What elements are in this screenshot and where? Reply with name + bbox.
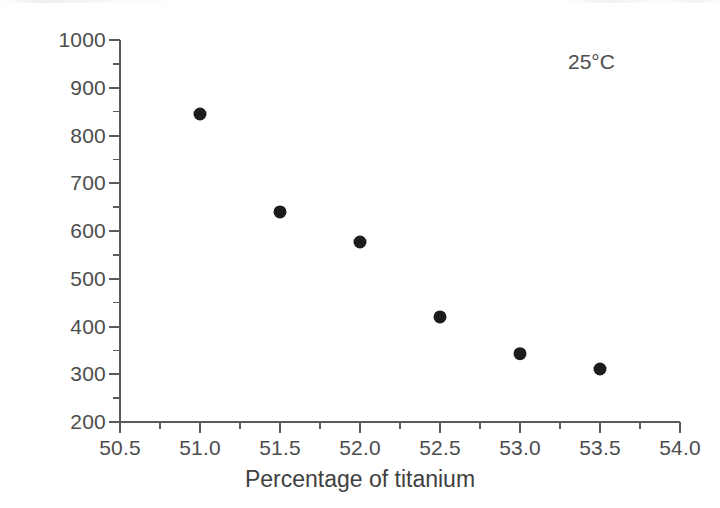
y-axis-ticks (109, 40, 120, 422)
x-axis-ticks (120, 422, 680, 433)
x-tick-label: 52.0 (339, 436, 381, 460)
y-tick-label: 600 (40, 219, 106, 243)
x-tick-label: 51.5 (259, 436, 301, 460)
x-tick-label: 53.5 (579, 436, 621, 460)
y-tick-label: 1000 (40, 28, 106, 52)
x-tick-label: 52.5 (419, 436, 461, 460)
data-point (194, 108, 207, 121)
x-axis-title: Percentage of titanium (0, 466, 720, 493)
y-tick-label: 700 (40, 171, 106, 195)
data-point-markers (194, 108, 607, 376)
data-point (514, 347, 527, 360)
data-point (434, 310, 447, 323)
temperature-annotation: 25°C (568, 50, 615, 74)
y-tick-label: 400 (40, 315, 106, 339)
y-tick-label: 200 (40, 410, 106, 434)
y-tick-label: 900 (40, 76, 106, 100)
data-point (354, 235, 367, 248)
x-tick-label: 50.5 (99, 436, 141, 460)
x-tick-label: 54.0 (659, 436, 701, 460)
data-point (594, 362, 607, 375)
data-point (274, 205, 287, 218)
y-tick-label: 800 (40, 124, 106, 148)
y-tick-label: 500 (40, 267, 106, 291)
chart-figure: 2003004005006007008009001000 50.551.051.… (0, 0, 720, 508)
x-tick-label: 53.0 (499, 436, 541, 460)
scatter-plot-canvas (0, 0, 720, 508)
y-tick-label: 300 (40, 362, 106, 386)
x-tick-label: 51.0 (179, 436, 221, 460)
